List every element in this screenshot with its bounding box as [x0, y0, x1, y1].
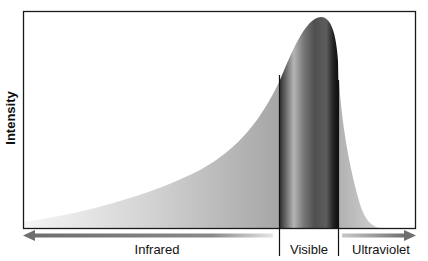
infrared-area	[24, 12, 279, 229]
emission-curve	[24, 12, 388, 229]
ultraviolet-label: Ultraviolet	[352, 242, 410, 257]
ultraviolet-arrow	[342, 230, 416, 241]
visible-band-area	[279, 12, 338, 229]
infrared-arrow	[23, 230, 273, 241]
ultraviolet-area	[338, 12, 388, 229]
spectrum-chart: Intensity Infrared Visible Ultraviolet	[0, 0, 428, 261]
y-axis-label: Intensity	[3, 91, 18, 145]
visible-label: Visible	[290, 242, 328, 257]
infrared-label: Infrared	[135, 242, 180, 257]
